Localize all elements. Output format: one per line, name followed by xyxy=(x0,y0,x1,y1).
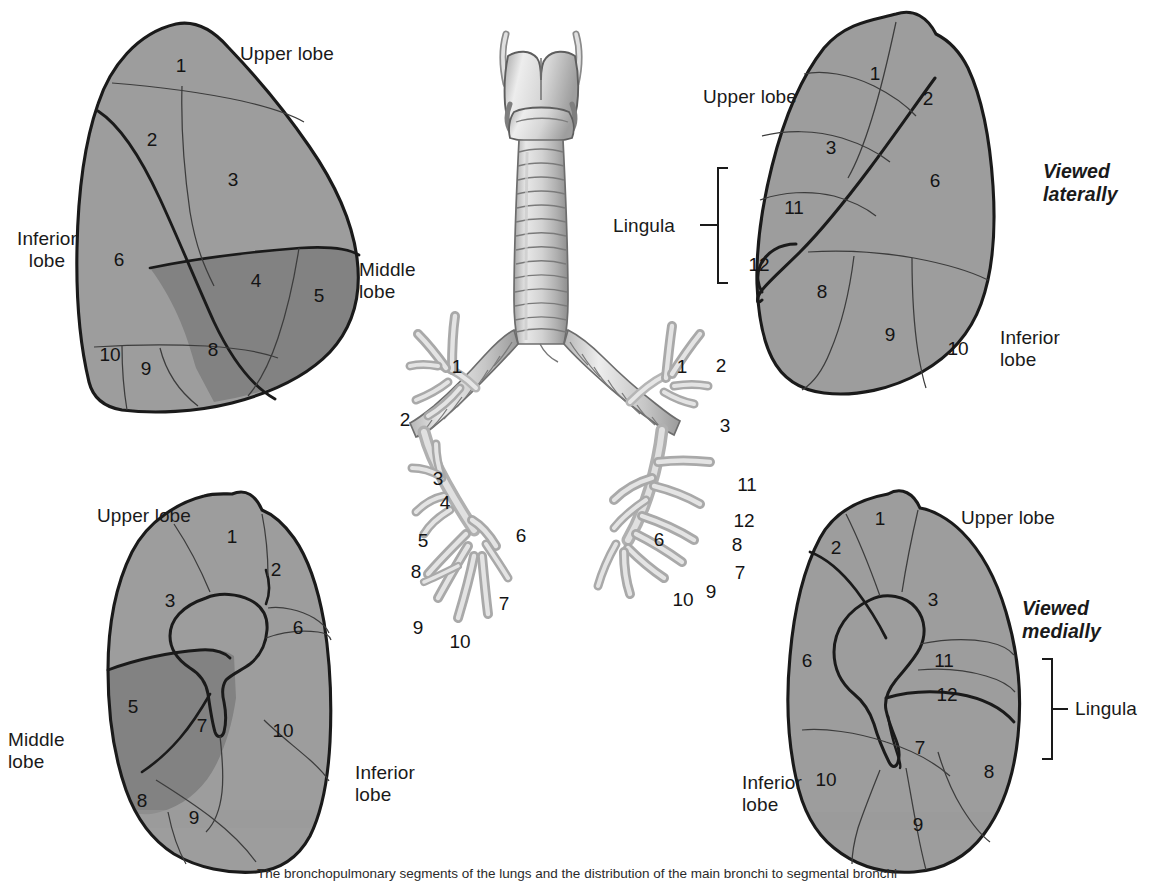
segment-number: 11 xyxy=(934,650,954,672)
segment-number: 10 xyxy=(815,769,836,791)
bronchus-number: 9 xyxy=(413,617,424,639)
bronchus-number: 2 xyxy=(400,409,411,431)
segment-number: 8 xyxy=(137,790,148,812)
segment-number: 12 xyxy=(936,684,957,706)
segment-number: 10 xyxy=(99,344,120,366)
label-inferior-lobe-br: Inferior lobe xyxy=(742,772,802,817)
bronchus-number: 2 xyxy=(716,355,727,377)
segment-number: 1 xyxy=(875,508,886,530)
segment-number: 10 xyxy=(947,338,968,360)
tracheobronchial-tree-svg xyxy=(380,0,780,660)
panel-bottom-left-lung: 1 2 3 6 5 7 10 8 9 xyxy=(60,480,390,880)
label-lingula-br: Lingula xyxy=(1075,698,1137,720)
bronchus-number: 12 xyxy=(733,510,754,532)
bronchus-number: 6 xyxy=(654,529,665,551)
segment-number: 3 xyxy=(928,589,939,611)
bronchus-number: 10 xyxy=(672,589,693,611)
segment-number: 1 xyxy=(870,63,881,85)
segment-number: 9 xyxy=(141,358,152,380)
label-inferior-lobe-tr: Inferior lobe xyxy=(1000,327,1060,372)
label-inferior-lobe-tl: Inferior lobe xyxy=(8,228,86,273)
segment-number: 8 xyxy=(984,761,995,783)
label-upper-lobe-br: Upper lobe xyxy=(961,507,1055,529)
bronchus-number: 9 xyxy=(706,581,717,603)
segment-number: 6 xyxy=(930,170,941,192)
segment-number: 7 xyxy=(915,737,926,759)
segment-number: 3 xyxy=(228,169,239,191)
lung-body-fill xyxy=(0,0,400,440)
segment-number: 8 xyxy=(817,281,828,303)
bronchus-number: 8 xyxy=(732,534,743,556)
panel-top-left-lung: 1 2 3 6 4 5 8 9 10 xyxy=(0,0,400,440)
bronchus-number: 6 xyxy=(516,525,527,547)
segment-number: 2 xyxy=(271,559,282,581)
bronchus-number: 7 xyxy=(735,562,746,584)
segment-number: 9 xyxy=(885,324,896,346)
bronchus-number: 1 xyxy=(452,356,463,378)
anatomy-figure: 1 2 3 6 4 5 8 9 10 Upper lobe Inferior l… xyxy=(0,0,1154,881)
figure-caption: The bronchopulmonary segments of the lun… xyxy=(0,866,1154,881)
panel-bottom-right-lung: 1 2 3 6 11 12 7 8 10 9 xyxy=(760,480,1080,880)
label-upper-lobe-bl: Upper lobe xyxy=(97,505,191,527)
bronchus-number: 5 xyxy=(418,530,429,552)
larynx xyxy=(503,34,579,142)
label-inferior-lobe-bl: Inferior lobe xyxy=(355,762,415,807)
panel-tracheobronchial-tree xyxy=(380,0,780,660)
segment-number: 4 xyxy=(251,270,262,292)
label-upper-lobe-tl: Upper lobe xyxy=(240,43,334,65)
label-middle-lobe-bl: Middle lobe xyxy=(8,729,65,774)
segment-number: 6 xyxy=(114,249,125,271)
segment-number: 6 xyxy=(293,617,304,639)
label-viewed-laterally: Viewed laterally xyxy=(1043,160,1118,206)
bronchus-number: 1 xyxy=(677,356,688,378)
bronchus-number: 11 xyxy=(737,474,757,496)
segment-number: 2 xyxy=(147,129,158,151)
bronchus-number: 10 xyxy=(449,631,470,653)
bronchus-number: 4 xyxy=(440,492,451,514)
bronchus-number: 3 xyxy=(720,415,731,437)
segment-number: 11 xyxy=(784,197,804,219)
segment-number: 9 xyxy=(189,807,200,829)
segment-number: 1 xyxy=(176,55,187,77)
segment-number: 6 xyxy=(802,650,813,672)
right-lung-medial-svg xyxy=(60,480,390,880)
segment-number: 5 xyxy=(128,696,139,718)
trachea xyxy=(514,140,568,344)
left-lung-bronchi-branches xyxy=(598,326,710,594)
right-lung-lateral-svg xyxy=(0,0,400,440)
lingula-bracket-bottom xyxy=(1038,655,1060,767)
segment-number: 7 xyxy=(197,715,208,737)
bronchus-number: 3 xyxy=(433,468,444,490)
segment-number: 3 xyxy=(826,137,837,159)
segment-number: 2 xyxy=(831,537,842,559)
segment-number: 5 xyxy=(314,285,325,307)
bronchus-number: 8 xyxy=(411,561,422,583)
segment-number: 8 xyxy=(208,339,219,361)
bronchus-number: 7 xyxy=(499,593,510,615)
segment-number: 9 xyxy=(913,814,924,836)
segment-number: 1 xyxy=(227,526,238,548)
segment-number: 10 xyxy=(272,720,293,742)
segment-number: 2 xyxy=(923,88,934,110)
segment-number: 3 xyxy=(165,590,176,612)
label-viewed-medially: Viewed medially xyxy=(1022,597,1101,643)
